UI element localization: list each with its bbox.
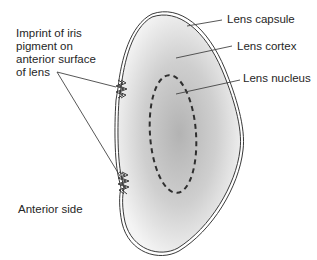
- lens-cortex-shape: [118, 15, 241, 252]
- label-iris-imprint-line2: pigment on: [16, 40, 116, 53]
- label-iris-imprint-line3: anterior surface: [16, 53, 116, 66]
- label-iris-imprint-line4: of lens: [16, 66, 116, 79]
- label-lens-cortex: Lens cortex: [237, 40, 296, 53]
- label-iris-imprint: Imprint of iris pigment on anterior surf…: [16, 27, 116, 79]
- leader-line-capsule: [187, 20, 222, 26]
- leader-line-imprint-lower: [57, 72, 120, 176]
- label-iris-imprint-line1: Imprint of iris: [16, 27, 116, 40]
- label-lens-nucleus: Lens nucleus: [243, 72, 311, 85]
- label-anterior-side: Anterior side: [18, 203, 83, 216]
- label-lens-capsule: Lens capsule: [227, 13, 295, 26]
